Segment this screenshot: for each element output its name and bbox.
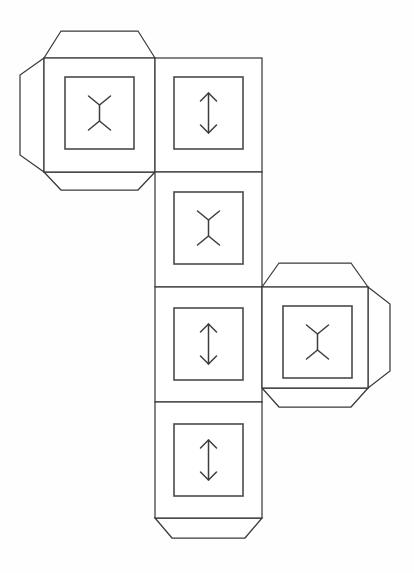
glue-tab-center-bottom: [155, 518, 262, 538]
face-center-bottom: [155, 402, 262, 518]
glue-tab-top-left-left: [20, 58, 44, 172]
glue-tab-right-right: [368, 287, 390, 388]
face-right: [262, 287, 368, 388]
glue-tab-right-top: [262, 263, 368, 287]
face-center-upper-middle: [155, 172, 262, 287]
face-center-top: [155, 58, 262, 172]
cube-net-svg: [0, 0, 414, 573]
glue-tab-right-bottom: [262, 388, 368, 407]
glue-tab-top-left-bottom: [44, 172, 155, 190]
face-top-left: [44, 58, 155, 172]
faces-group: [44, 58, 368, 518]
cube-net-figure: [0, 0, 414, 573]
glue-tab-top-left-top: [44, 31, 155, 58]
face-center-lower-middle: [155, 287, 262, 402]
